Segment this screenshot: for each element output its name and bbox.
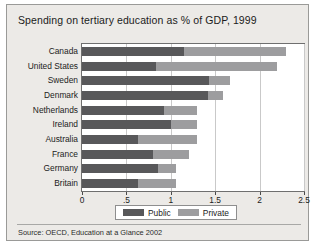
bar-segment-private <box>153 150 189 159</box>
bar-segment-private <box>184 47 286 56</box>
bar-segment-public <box>82 120 171 129</box>
category-label: Denmark <box>44 91 78 100</box>
legend-swatch <box>178 209 199 216</box>
gridline <box>304 44 305 191</box>
bar-row <box>82 62 304 71</box>
bar-segment-public <box>82 150 153 159</box>
bar-segment-private <box>209 76 230 85</box>
bar-segment-public <box>82 76 209 85</box>
bar-segment-private <box>164 106 197 115</box>
legend-item: Public <box>123 208 171 218</box>
bar-segment-public <box>82 62 156 71</box>
bar-row <box>82 47 304 56</box>
source-note: Source: OECD, Education at a Glance 2002 <box>18 228 162 237</box>
category-label: Britain <box>54 179 78 188</box>
category-label: France <box>52 150 78 159</box>
category-label: Ireland <box>52 120 78 129</box>
category-label: Sweden <box>48 76 78 85</box>
bar-segment-private <box>156 62 278 71</box>
bar-row <box>82 106 304 115</box>
category-label: Netherlands <box>33 106 78 115</box>
page-title: Spending on tertiary education as % of G… <box>18 14 257 26</box>
chart-legend: PublicPrivate <box>115 205 237 220</box>
category-label: Germany <box>44 164 78 173</box>
legend-label: Public <box>148 208 171 218</box>
bar-segment-private <box>158 164 176 173</box>
bar-segment-public <box>82 91 208 100</box>
bar-row <box>82 164 304 173</box>
legend-swatch <box>123 209 144 216</box>
bar-row <box>82 76 304 85</box>
x-axis-tick-label: 1.5 <box>209 195 221 205</box>
bar-row <box>82 135 304 144</box>
x-axis-tick-label: 2 <box>257 195 262 205</box>
category-label: Canada <box>49 47 78 56</box>
bar-row <box>82 179 304 188</box>
bar-segment-public <box>82 106 164 115</box>
y-axis-category-labels: CanadaUnited StatesSwedenDenmarkNetherla… <box>7 43 78 192</box>
legend-item: Private <box>178 208 229 218</box>
bar-segment-public <box>82 135 138 144</box>
bar-row <box>82 91 304 100</box>
category-label: United States <box>28 62 78 71</box>
chart-figure: Spending on tertiary education as % of G… <box>6 4 309 241</box>
bar-segment-private <box>171 120 197 129</box>
bar-segment-public <box>82 47 184 56</box>
bar-segment-private <box>138 179 176 188</box>
bar-segment-public <box>82 179 138 188</box>
x-axis-tick-label: .5 <box>123 195 130 205</box>
x-axis-tick-label: 2.5 <box>298 195 310 205</box>
source-divider <box>17 224 301 225</box>
bar-segment-public <box>82 164 158 173</box>
bar-segment-private <box>208 91 223 100</box>
x-axis-tick-label: 1 <box>168 195 173 205</box>
legend-label: Private <box>203 208 229 218</box>
category-label: Australia <box>45 135 78 144</box>
x-axis-tick-label: 0 <box>80 195 85 205</box>
plot-inner <box>82 44 304 191</box>
bar-row <box>82 120 304 129</box>
plot-area <box>81 43 305 192</box>
bar-row <box>82 150 304 159</box>
bar-segment-private <box>138 135 197 144</box>
